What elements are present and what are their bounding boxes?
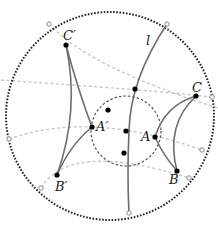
ideal-point	[127, 211, 131, 215]
boundary-circle	[6, 12, 214, 220]
label-a: A	[140, 129, 150, 144]
triangle-prime	[57, 45, 92, 175]
guide-geodesic-c	[0, 80, 212, 97]
guide-geodesics	[0, 24, 218, 188]
ideal-point	[200, 148, 204, 152]
point-b-prime	[54, 172, 59, 177]
point-center	[105, 107, 110, 112]
point-a	[152, 134, 157, 139]
label-c-prime: C′	[63, 28, 76, 43]
intersection-point	[132, 86, 137, 91]
ideal-point	[165, 22, 169, 26]
ideal-point	[47, 22, 51, 26]
intersection-point	[123, 128, 128, 133]
edge-c-b	[174, 96, 196, 171]
ideal-point	[7, 137, 11, 141]
label-a-prime: A′	[95, 119, 108, 134]
geodesic-line-l	[128, 24, 167, 213]
ideal-points	[7, 22, 214, 215]
label-c: C	[192, 80, 202, 95]
hyperbolic-disk-diagram: l C′ C A′ A B′ B	[0, 0, 218, 230]
point-a-prime	[89, 124, 94, 129]
ideal-point	[187, 176, 191, 180]
intersection-point	[121, 150, 126, 155]
edge-c-prime-b-prime	[57, 45, 71, 175]
label-line-l: l	[146, 33, 150, 48]
edge-a-prime-b-prime	[57, 127, 92, 175]
ideal-point	[39, 186, 43, 190]
label-b: B	[168, 172, 179, 187]
points	[54, 42, 198, 177]
label-b-prime: B′	[54, 179, 68, 194]
ideal-point	[210, 95, 214, 99]
point-c-prime	[63, 42, 68, 47]
triangle	[155, 96, 196, 171]
